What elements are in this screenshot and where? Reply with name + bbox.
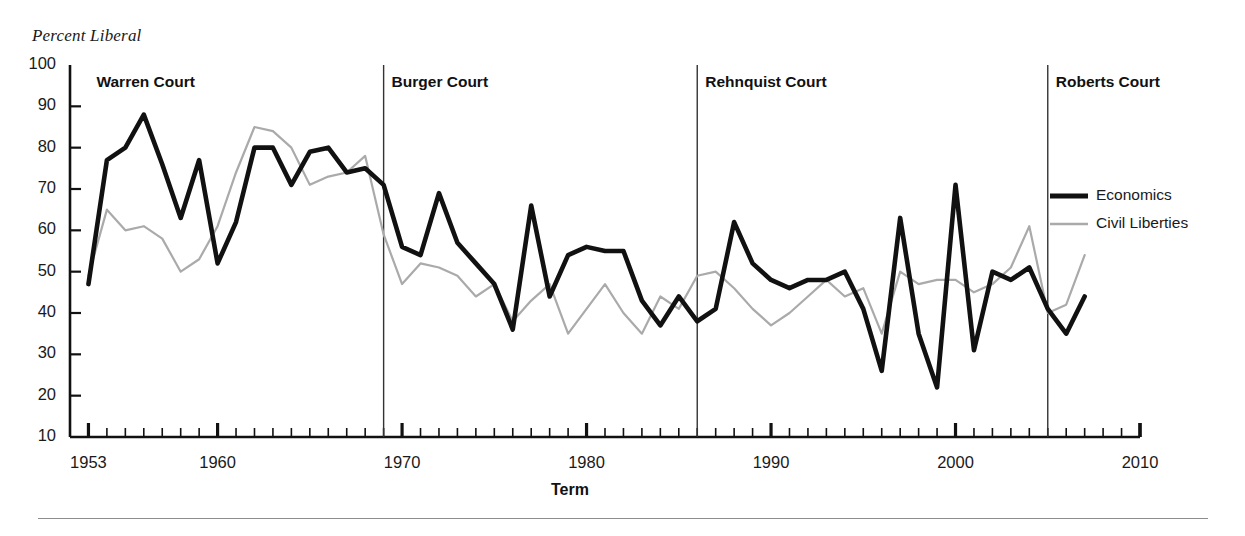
era-label-warren-court: Warren Court — [96, 73, 194, 91]
x-tick-label-1960: 1960 — [183, 453, 253, 472]
x-tick-label-2000: 2000 — [921, 453, 991, 472]
legend-label-economics: Economics — [1096, 186, 1172, 204]
y-tick-label-80: 80 — [12, 137, 56, 156]
era-label-burger-court: Burger Court — [392, 73, 488, 91]
x-tick-label-1953: 1953 — [53, 453, 123, 472]
y-tick-label-90: 90 — [12, 95, 56, 114]
y-tick-label-40: 40 — [12, 302, 56, 321]
y-tick-label-70: 70 — [12, 178, 56, 197]
series-line-civil-liberties — [88, 127, 1084, 334]
y-tick-label-50: 50 — [12, 261, 56, 280]
y-tick-label-20: 20 — [12, 385, 56, 404]
chart-figure: Percent Liberal Term Warren Court Burger… — [0, 0, 1245, 536]
y-tick-label-100: 100 — [12, 54, 56, 73]
series-line-economics — [88, 115, 1084, 388]
era-label-rehnquist-court: Rehnquist Court — [705, 73, 826, 91]
legend-label-civil-liberties: Civil Liberties — [1096, 214, 1188, 232]
y-tick-label-60: 60 — [12, 219, 56, 238]
footer-divider — [38, 518, 1208, 519]
x-tick-label-1970: 1970 — [367, 453, 437, 472]
y-tick-label-30: 30 — [12, 343, 56, 362]
x-tick-label-2010: 2010 — [1105, 453, 1175, 472]
y-tick-label-10: 10 — [12, 426, 56, 445]
x-axis-title: Term — [0, 481, 1140, 499]
era-label-roberts-court: Roberts Court — [1056, 73, 1160, 91]
y-axis-caption: Percent Liberal — [32, 26, 142, 46]
x-tick-label-1990: 1990 — [736, 453, 806, 472]
x-tick-label-1980: 1980 — [552, 453, 622, 472]
